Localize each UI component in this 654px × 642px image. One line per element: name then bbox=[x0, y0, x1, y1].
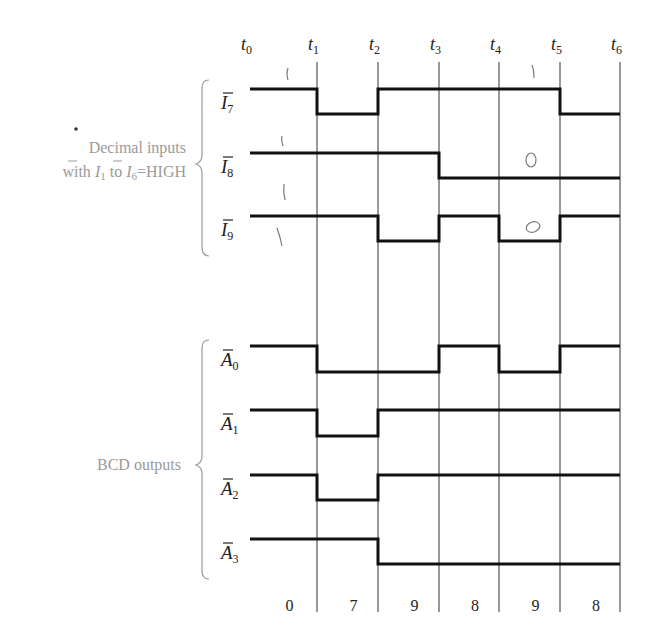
signal-label-I8: I8 bbox=[220, 156, 233, 180]
waveform-I7 bbox=[250, 89, 620, 114]
time-marker-t2: t2 bbox=[369, 34, 380, 57]
interval-value: 9 bbox=[411, 597, 419, 614]
signal-label-I9: I9 bbox=[220, 219, 233, 243]
waveform-A2 bbox=[250, 475, 620, 500]
decimal-inputs-brace bbox=[196, 80, 209, 256]
waveform-I9 bbox=[250, 216, 620, 241]
time-marker-t1: t1 bbox=[308, 34, 319, 57]
interval-value: 8 bbox=[471, 597, 479, 614]
time-marker-t3: t3 bbox=[430, 34, 441, 57]
time-marker-labels: t0t1t2t3t4t5t6 bbox=[241, 34, 622, 57]
stray-dot bbox=[74, 127, 78, 131]
interval-values: 079898 bbox=[286, 597, 601, 614]
interval-value: 9 bbox=[532, 597, 540, 614]
interval-value: 8 bbox=[592, 597, 600, 614]
signal-label-A3: A3 bbox=[219, 542, 239, 566]
waveform-A3 bbox=[250, 539, 620, 564]
signal-labels: I7I8I9A0A1A2A3 bbox=[219, 92, 239, 566]
time-marker-t6: t6 bbox=[611, 34, 622, 57]
interval-value: 0 bbox=[286, 597, 294, 614]
signal-label-A2: A2 bbox=[219, 478, 239, 502]
signal-label-A0: A0 bbox=[219, 349, 239, 373]
time-gridlines bbox=[317, 62, 620, 612]
waveform-A0 bbox=[250, 346, 620, 372]
signal-label-A1: A1 bbox=[219, 413, 239, 437]
bcd-outputs-label: BCD outputs bbox=[97, 456, 181, 474]
bcd-outputs-brace bbox=[196, 340, 209, 579]
waveform-A1 bbox=[250, 410, 620, 436]
decimal-inputs-label: Decimal inputs bbox=[89, 139, 186, 157]
time-marker-t0: t0 bbox=[241, 34, 252, 57]
time-marker-t5: t5 bbox=[551, 34, 562, 57]
waveforms bbox=[250, 89, 620, 564]
timing-diagram: t0t1t2t3t4t5t6 I7I8I9A0A1A2A3 079898 Dec… bbox=[0, 0, 654, 642]
signal-label-I7: I7 bbox=[220, 92, 233, 116]
decimal-inputs-condition: with I1 to I6=HIGH bbox=[62, 163, 186, 182]
waveform-I8 bbox=[250, 153, 620, 178]
interval-value: 7 bbox=[350, 597, 358, 614]
time-marker-t4: t4 bbox=[490, 34, 501, 57]
